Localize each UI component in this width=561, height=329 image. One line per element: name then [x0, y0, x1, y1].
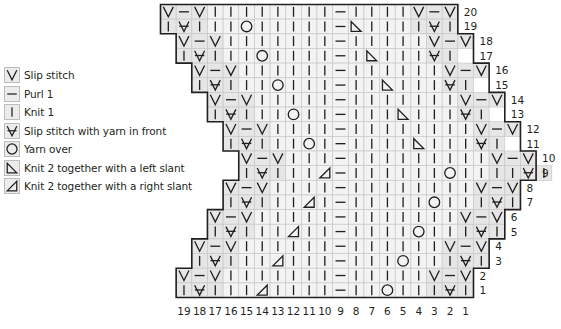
column-number: 8	[353, 305, 360, 317]
column-number: 2	[447, 305, 454, 317]
row-number: 12	[526, 123, 539, 135]
column-number: 9	[337, 305, 344, 317]
row-number: 16	[495, 64, 509, 76]
stitch-chart: 2019181716151413121110987654321191817161…	[0, 0, 561, 329]
column-number: 1	[462, 305, 469, 317]
row-number: 4	[495, 240, 502, 252]
row-number: 11	[526, 138, 539, 150]
column-number: 15	[240, 305, 253, 317]
column-number: 14	[256, 305, 270, 317]
chart-row-13	[207, 107, 489, 122]
row-number: 19	[464, 20, 477, 32]
row-number: 10	[542, 152, 555, 164]
column-number: 16	[224, 305, 238, 317]
column-number: 19	[177, 305, 190, 317]
chart-cells	[161, 5, 552, 298]
chart-row-11	[223, 136, 505, 151]
row-number: 14	[511, 94, 525, 106]
row-number: 5	[511, 226, 518, 238]
column-number: 10	[318, 305, 331, 317]
chart-row-9	[239, 166, 552, 181]
row-number: 17	[480, 50, 493, 62]
row-number: 3	[495, 255, 502, 267]
row-number: 8	[526, 182, 533, 194]
row-number: 6	[511, 211, 518, 223]
row-number: 9	[542, 167, 549, 179]
column-labels: 19181716151413121110987654321	[177, 305, 469, 317]
column-number: 5	[400, 305, 407, 317]
column-number: 13	[271, 305, 284, 317]
row-number: 2	[480, 270, 487, 282]
row-number: 1	[480, 284, 487, 296]
row-number: 18	[480, 35, 493, 47]
column-number: 4	[415, 305, 422, 317]
column-number: 17	[209, 305, 222, 317]
column-number: 7	[368, 305, 375, 317]
column-number: 3	[431, 305, 438, 317]
row-number: 15	[495, 79, 508, 91]
chart-row-17	[176, 48, 458, 63]
column-number: 11	[302, 305, 315, 317]
row-number: 7	[526, 196, 533, 208]
column-number: 18	[193, 305, 206, 317]
column-number: 12	[287, 305, 300, 317]
chart-row-15	[192, 78, 474, 93]
row-number: 13	[511, 108, 524, 120]
row-number: 20	[464, 6, 477, 18]
column-number: 6	[384, 305, 391, 317]
